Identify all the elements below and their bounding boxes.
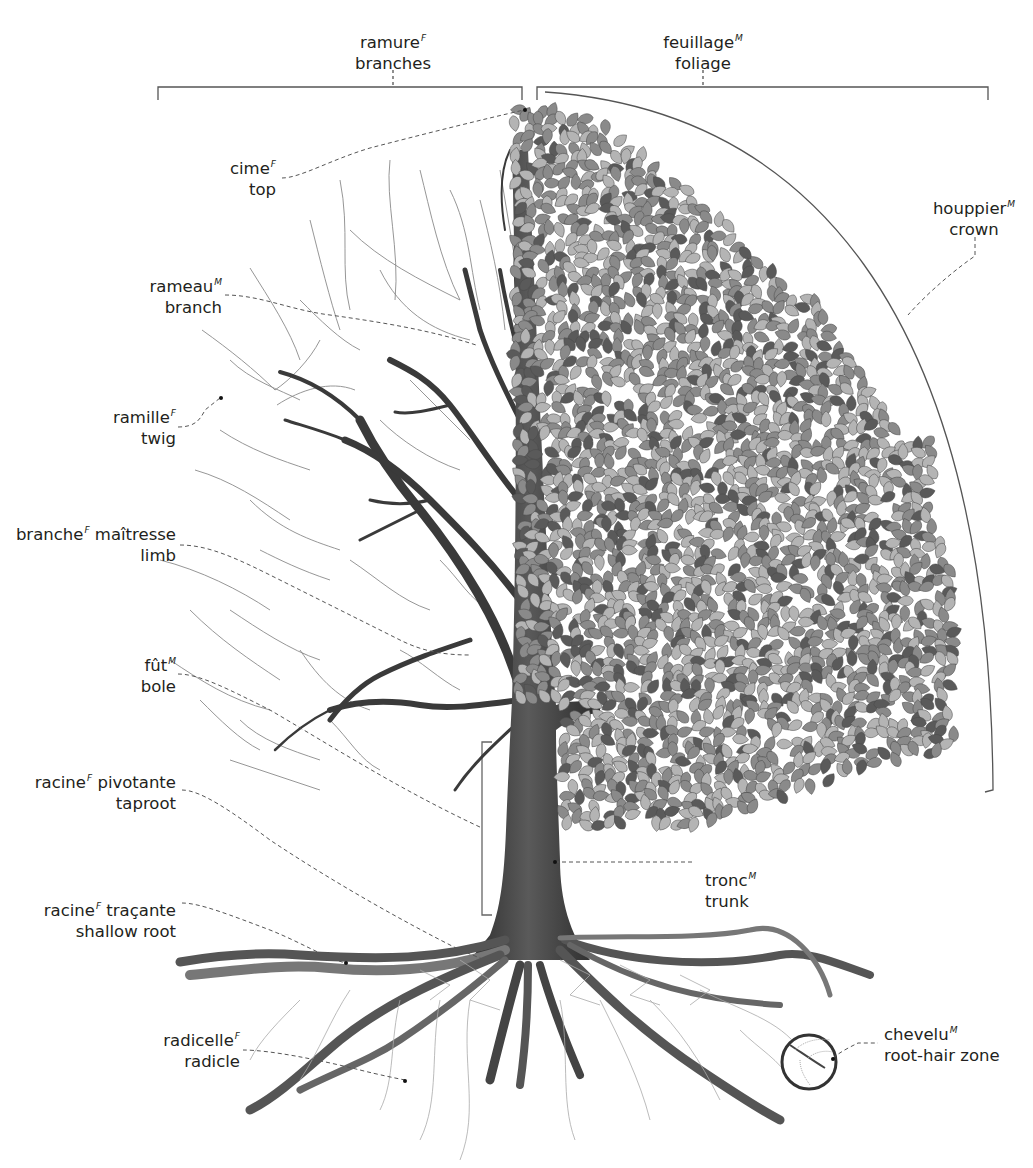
gender-mark: F — [235, 1031, 240, 1041]
label-houppier-fr: houppier — [933, 199, 1006, 218]
label-cime-fr: cime — [230, 159, 270, 178]
label-chevelu-fr: chevelu — [884, 1025, 949, 1044]
label-ramure-fr: ramure — [360, 33, 420, 52]
tree-diagram: ramureF branches feuillageM foliage cime… — [0, 0, 1033, 1168]
label-racine-tracante-en: shallow root — [20, 921, 176, 942]
label-fut-en: bole — [110, 676, 176, 697]
label-racine-pivotante-en: taproot — [10, 793, 176, 814]
label-rameau-en: branch — [130, 297, 222, 318]
label-racine-tracante-suffix: traçante — [101, 901, 176, 920]
gender-mark: F — [171, 408, 176, 418]
ramure-bracket — [158, 70, 522, 100]
label-rameau: rameauM branch — [130, 272, 222, 318]
label-radicelle-en: radicle — [140, 1051, 240, 1072]
label-ramure: ramureF branches — [350, 28, 436, 74]
feuillage-bracket — [537, 70, 988, 100]
twigs — [160, 160, 515, 790]
fut-bracket — [482, 742, 492, 915]
label-branche-fr: branche — [16, 525, 84, 544]
gender-mark: M — [214, 277, 222, 287]
label-racine-tracante-fr: racine — [44, 901, 95, 920]
label-tronc-fr: tronc — [705, 871, 748, 890]
label-radicelle-fr: radicelle — [163, 1031, 234, 1050]
label-fut: fûtM bole — [110, 651, 176, 697]
label-tronc-en: trunk — [705, 891, 795, 912]
gender-mark: F — [421, 33, 426, 43]
label-ramille-fr: ramille — [113, 408, 170, 427]
root-hair-magnifier — [782, 1035, 836, 1089]
label-chevelu-en: root-hair zone — [884, 1045, 1032, 1066]
label-rameau-fr: rameau — [150, 277, 214, 296]
label-racine-pivotante-fr: racine — [35, 773, 86, 792]
label-feuillage: feuillageM foliage — [657, 28, 749, 74]
label-houppier: houppierM crown — [928, 194, 1020, 240]
branches — [275, 150, 520, 790]
label-fut-fr: fût — [144, 656, 167, 675]
label-feuillage-fr: feuillage — [663, 33, 734, 52]
gender-mark: M — [749, 871, 757, 881]
label-feuillage-en: foliage — [657, 53, 749, 74]
label-houppier-en: crown — [928, 219, 1020, 240]
label-ramille: ramilleF twig — [100, 403, 176, 449]
label-cime: cimeF top — [196, 154, 276, 200]
gender-mark: M — [168, 656, 176, 666]
label-racine-tracante: racineF traçante shallow root — [20, 896, 176, 942]
label-racine-pivotante: racineF pivotante taproot — [10, 768, 176, 814]
gender-mark: M — [735, 33, 743, 43]
label-branche-suffix: maîtresse — [90, 525, 176, 544]
label-tronc: troncM trunk — [705, 866, 795, 912]
label-ramille-en: twig — [100, 428, 176, 449]
label-radicelle: radicelleF radicle — [140, 1026, 240, 1072]
label-branche-maitresse-en: limb — [4, 545, 176, 566]
gender-mark: F — [271, 159, 276, 169]
gender-mark: M — [950, 1025, 958, 1035]
label-chevelu: cheveluM root-hair zone — [884, 1020, 1032, 1066]
label-racine-pivotante-suffix: pivotante — [92, 773, 176, 792]
gender-mark: M — [1007, 199, 1015, 209]
label-cime-en: top — [196, 179, 276, 200]
foliage-leaves — [506, 101, 964, 834]
label-branche-maitresse: brancheF maîtresse limb — [4, 520, 176, 566]
label-ramure-en: branches — [350, 53, 436, 74]
tree-illustration — [0, 0, 1033, 1168]
